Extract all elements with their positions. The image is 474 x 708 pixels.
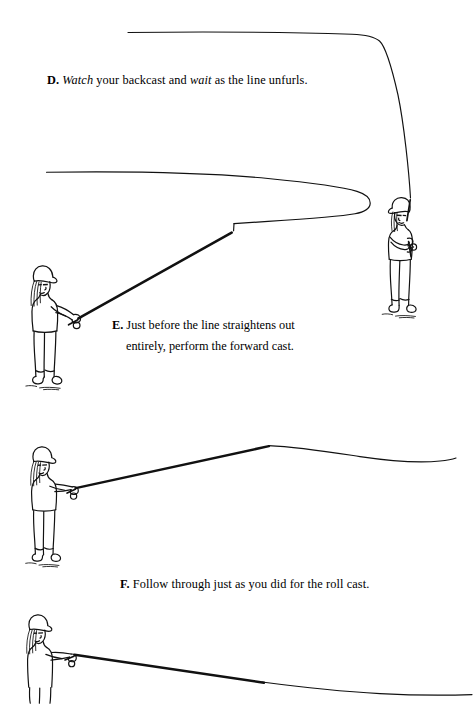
line-backcast	[128, 32, 411, 198]
caption-d-word-wait: wait	[190, 73, 212, 87]
caption-d-text-2: as the line unfurls.	[212, 73, 308, 87]
line-forward-cast	[269, 446, 457, 462]
caption-e-text: Just before the line straightens out ent…	[126, 318, 295, 353]
caption-f-label: F.	[120, 577, 130, 591]
caption-d: D. Watch your backcast and wait as the l…	[47, 74, 308, 86]
illustration-page: .ln { fill:none; stroke:#111; stroke-lin…	[0, 0, 474, 708]
figure-e-angler	[26, 233, 232, 390]
caption-e-label: E.	[112, 318, 123, 332]
caption-f-text: Follow through just as you did for the r…	[133, 577, 369, 591]
line-unfurling-loop	[47, 172, 371, 231]
line-follow-through	[262, 682, 472, 695]
figure-follow-through-angler	[27, 615, 264, 703]
figure-f-angler	[26, 446, 269, 567]
caption-e: E. Just before the line straightens out …	[112, 315, 306, 357]
caption-d-text-1: your backcast and	[93, 73, 190, 87]
caption-f: F. Follow through just as you did for th…	[120, 578, 369, 590]
caption-d-label: D.	[47, 73, 59, 87]
figure-d-angler	[382, 198, 416, 318]
caption-d-word-watch: Watch	[62, 73, 93, 87]
